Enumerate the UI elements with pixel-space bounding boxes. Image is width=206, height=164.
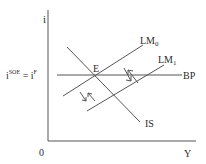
adjustment-arrow-down-right-lower (80, 92, 86, 101)
x-axis-label: Y (184, 148, 191, 159)
is-lm-bp-diagram: i 0 Y iSOE = iF E BP IS LM0 LM1 (0, 0, 206, 164)
lm1-label: LM1 (158, 54, 177, 67)
interest-rate-label: iSOE = iF (6, 69, 38, 81)
origin-label: 0 (39, 147, 44, 158)
lm0-label: LM0 (140, 35, 159, 48)
y-axis-label: i (43, 13, 46, 25)
bp-label: BP (183, 70, 196, 81)
is-label: IS (145, 118, 154, 129)
is-curve (67, 47, 140, 122)
equilibrium-label: E (93, 63, 99, 74)
adjustment-arrow-up-left-lower (88, 93, 95, 101)
